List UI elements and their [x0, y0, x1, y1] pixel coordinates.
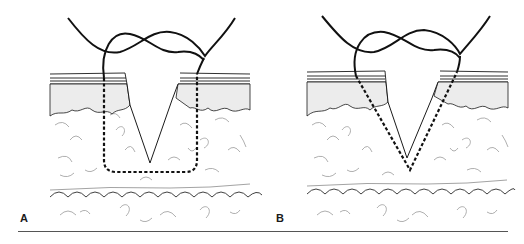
panel-b: B [262, 0, 524, 230]
panel-label-b: B [276, 212, 284, 224]
suture-diagram-a [0, 0, 262, 230]
panel-a: A [0, 0, 262, 230]
panel-label-a: A [20, 212, 28, 224]
deep-texture [317, 205, 497, 222]
wound-edges [386, 82, 438, 158]
papillary-dermis-left [50, 84, 130, 116]
suture-thread-knot [68, 18, 235, 78]
figure-bottom-rule [18, 231, 508, 232]
fat-layer [50, 184, 262, 197]
suture-exit [457, 56, 460, 72]
epidermis [50, 73, 250, 84]
papillary-dermis-right [176, 84, 250, 111]
suture-exit [197, 58, 204, 74]
deep-texture [60, 205, 240, 222]
epidermis [307, 71, 508, 82]
fat-layer [307, 180, 515, 194]
suture-diagram-b [262, 0, 524, 230]
suture-thread-knot [322, 16, 490, 76]
